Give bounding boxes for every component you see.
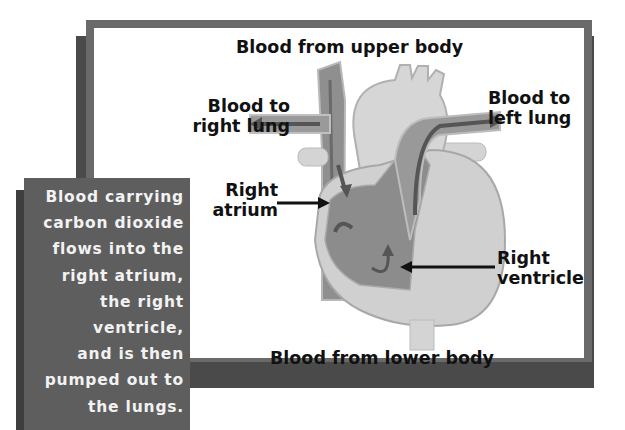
label-blood-from-upper-body: Blood from upper body <box>236 37 463 57</box>
description-panel: Blood carrying carbon dioxide flows into… <box>24 178 190 430</box>
label-blood-to-right-lung: Blood to right lung <box>188 96 290 136</box>
label-right-atrium: Right atrium <box>212 180 278 220</box>
label-blood-from-lower-body: Blood from lower body <box>270 348 494 368</box>
label-right-ventricle: Right ventricle <box>497 248 584 288</box>
label-blood-to-left-lung: Blood to left lung <box>488 88 571 128</box>
description-text: Blood carrying carbon dioxide flows into… <box>24 184 184 420</box>
inferior-vena-cava <box>410 320 434 350</box>
